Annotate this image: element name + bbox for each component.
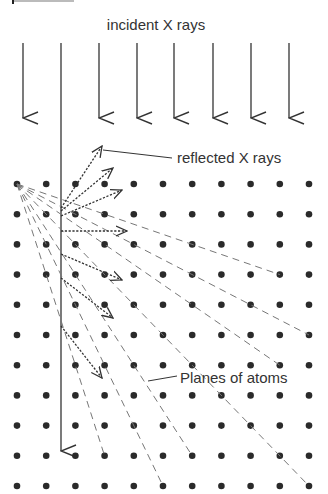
atom-dot [247,453,254,460]
atom-dot [306,422,313,429]
atom-dot [43,362,50,369]
atom-dot [131,392,138,399]
atom-dot [131,271,138,278]
reflected-rays [61,146,127,378]
atom-dot [277,302,284,309]
atom-dot [247,302,254,309]
atom-dot [43,332,50,339]
atom-dot [160,211,167,218]
atom-dot [160,181,167,188]
atom-dot [277,332,284,339]
reflected-ray-arrow [61,326,102,378]
atom-dot [277,211,284,218]
atom-dot [101,362,108,369]
atom-dot [189,211,196,218]
cropped-heading-fragment [12,0,74,4]
atom-dot [131,362,138,369]
atom-dot [43,392,50,399]
atom-dot [218,332,225,339]
atom-dot [247,332,254,339]
atom-dot [14,332,21,339]
atom-dot [72,271,79,278]
atom-dot [72,483,79,490]
atom-dot [189,181,196,188]
atom-dot [14,392,21,399]
atom-dot [101,332,108,339]
atom-dot [218,453,225,460]
atom-dot [218,211,225,218]
atom-dot [189,302,196,309]
atom-dot [277,422,284,429]
atom-dot [101,392,108,399]
atom-dot [101,241,108,248]
atom-dot [277,241,284,248]
atom-dot [14,211,21,218]
atom-dot [189,483,196,490]
atom-dot [14,483,21,490]
atom-dot [131,483,138,490]
atom-dot [72,453,79,460]
atom-dot [189,422,196,429]
atom-dot [43,271,50,278]
atom-dot [101,181,108,188]
atom-dot [131,181,138,188]
atom-dot [218,181,225,188]
atom-dot [247,211,254,218]
atom-dot [247,392,254,399]
atom-dot [14,422,21,429]
atom-dot [189,392,196,399]
atom-dot [160,302,167,309]
atom-dot [189,332,196,339]
reflected-ray-arrow [61,146,102,208]
atom-dot [218,241,225,248]
reflected-xrays-label: reflected X rays [177,149,281,166]
atom-dot [306,271,313,278]
atom-dot [277,392,284,399]
reflected-leader-line [103,150,172,158]
atom-dot [218,302,225,309]
atom-dot [247,241,254,248]
atom-dot [101,211,108,218]
atom-dot [160,422,167,429]
atom-dot [160,241,167,248]
atom-dot [101,453,108,460]
atom-dot [306,181,313,188]
atom-dot [247,483,254,490]
atom-dot [131,332,138,339]
atom-dot [72,392,79,399]
plane-line [17,184,163,486]
atom-dot [277,483,284,490]
atom-dot [101,422,108,429]
atom-dot [218,422,225,429]
atom-dot [14,271,21,278]
incident-xrays-label: incident X rays [107,16,205,33]
atom-dot [218,362,225,369]
atom-dot [72,332,79,339]
atom-dot [101,483,108,490]
atom-dot [160,453,167,460]
atom-dot [43,422,50,429]
xray-diffraction-diagram: incident X rays reflected X rays Planes … [0,0,328,494]
atom-dot [43,302,50,309]
plane-line [17,184,280,275]
atom-dot [306,241,313,248]
atom-dot [306,211,313,218]
planes-of-atoms-label: Planes of atoms [180,369,288,386]
atom-dot [160,271,167,278]
atom-dot [218,483,225,490]
atom-dot [306,302,313,309]
atom-dot [131,241,138,248]
atom-dot [43,181,50,188]
atom-dot [43,483,50,490]
atom-dot [72,422,79,429]
atom-dot [247,362,254,369]
atom-dot [160,362,167,369]
atom-dot [306,362,313,369]
reflected-ray-arrow [61,278,113,318]
atom-dot [160,392,167,399]
atom-dot [101,302,108,309]
atom-dot [277,181,284,188]
atom-dot [14,241,21,248]
atom-dot [247,271,254,278]
atom-dot [247,181,254,188]
